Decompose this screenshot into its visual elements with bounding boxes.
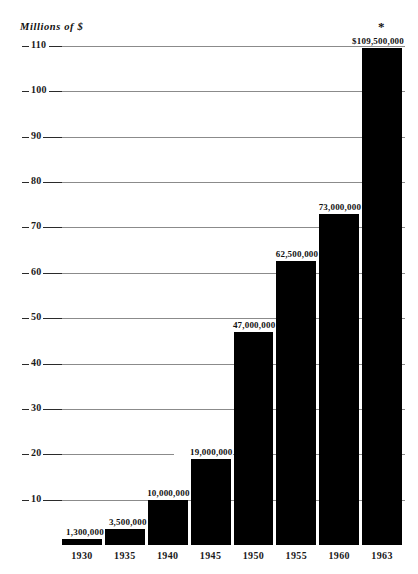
y-tick-connector bbox=[43, 318, 62, 319]
y-tick-connector bbox=[43, 227, 62, 228]
y-tick-connector bbox=[43, 137, 62, 138]
y-tick-label: 20 bbox=[31, 447, 42, 458]
bar-chart: Millions of $ 102030405060708090100110 1… bbox=[0, 0, 418, 574]
bar-1955 bbox=[276, 261, 316, 545]
y-tick-connector bbox=[43, 273, 62, 274]
y-tick-dash bbox=[22, 91, 29, 92]
y-tick-label: 10 bbox=[31, 493, 42, 504]
y-tick-connector bbox=[43, 409, 62, 410]
y-tick-label: 100 bbox=[31, 84, 47, 95]
y-tick-dash bbox=[22, 182, 29, 183]
y-tick-label: 40 bbox=[31, 357, 42, 368]
bar-1940 bbox=[148, 500, 188, 545]
bar-value-label-1960: 73,000,000 bbox=[302, 202, 361, 212]
bar-value-label-1950: 47,000,000 bbox=[216, 320, 275, 330]
x-tick-label-1940: 1940 bbox=[148, 550, 188, 561]
y-tick-dash bbox=[22, 137, 29, 138]
y-tick-connector bbox=[43, 182, 62, 183]
y-tick-label: 30 bbox=[31, 402, 42, 413]
bar-1930 bbox=[62, 539, 102, 545]
x-tick-label-1963: 1963 bbox=[362, 550, 402, 561]
bar-1960 bbox=[319, 214, 359, 545]
x-tick-label-1930: 1930 bbox=[62, 550, 102, 561]
y-tick-dash bbox=[22, 409, 29, 410]
y-tick-dash bbox=[22, 454, 29, 455]
y-tick-connector bbox=[49, 46, 62, 47]
bar-1945 bbox=[191, 459, 231, 545]
y-tick-dash bbox=[22, 273, 29, 274]
x-tick-label-1935: 1935 bbox=[105, 550, 145, 561]
bar-value-label-1930: 1,300,000 bbox=[50, 527, 104, 537]
y-tick-dash bbox=[22, 46, 29, 47]
y-axis-unit-caption: Millions of $ bbox=[20, 21, 83, 32]
y-tick-connector bbox=[43, 364, 62, 365]
asterisk-annotation: * bbox=[378, 20, 385, 33]
bar-value-label-1935: 3,500,000 bbox=[93, 517, 147, 527]
x-tick-label-1945: 1945 bbox=[191, 550, 231, 561]
y-tick-label: 80 bbox=[31, 175, 42, 186]
y-tick-label: 110 bbox=[31, 39, 46, 50]
y-tick-connector bbox=[49, 91, 62, 92]
bar-1935 bbox=[105, 529, 145, 545]
x-tick-label-1960: 1960 bbox=[319, 550, 359, 561]
x-tick-label-1950: 1950 bbox=[234, 550, 274, 561]
bar-value-label-1940: 10,000,000 bbox=[131, 488, 190, 498]
y-tick-label: 60 bbox=[31, 266, 42, 277]
bar-1950 bbox=[234, 332, 274, 545]
y-tick-dash bbox=[22, 318, 29, 319]
x-tick-label-1955: 1955 bbox=[276, 550, 316, 561]
bar-value-label-1955: 62,500,000 bbox=[259, 249, 318, 259]
y-tick-dash bbox=[22, 364, 29, 365]
bar-1963 bbox=[362, 48, 402, 545]
y-tick-label: 90 bbox=[31, 130, 42, 141]
bar-value-label-1945: 19,000,000 bbox=[174, 447, 233, 457]
y-tick-connector bbox=[43, 454, 62, 455]
x-axis: 19301935194019451950195519601963 bbox=[0, 548, 418, 572]
y-tick-dash bbox=[22, 227, 29, 228]
y-tick-connector bbox=[43, 500, 62, 501]
y-tick-dash bbox=[22, 500, 29, 501]
bar-value-label-1963: $109,500,000 bbox=[334, 36, 404, 46]
y-tick-label: 70 bbox=[31, 220, 42, 231]
y-tick-label: 50 bbox=[31, 311, 42, 322]
